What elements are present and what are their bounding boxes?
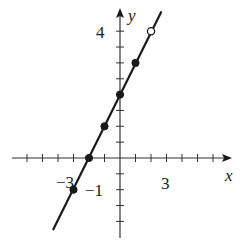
plotted-line [53, 12, 161, 229]
filled-point [132, 59, 139, 66]
x-tick-label-neg3: −3 [56, 173, 74, 192]
open-point [147, 28, 154, 35]
filled-point [101, 123, 108, 130]
filled-point [85, 154, 92, 161]
coordinate-plane: x y −3 3 4 −1 [0, 0, 248, 241]
x-axis-label: x [224, 166, 233, 185]
y-tick-label-neg1: −1 [85, 181, 103, 200]
graph-line [53, 12, 161, 229]
y-tick-label-4: 4 [96, 23, 105, 42]
axes [12, 8, 232, 238]
y-axis-label: y [126, 6, 136, 25]
x-tick-label-3: 3 [161, 174, 170, 193]
filled-point [116, 91, 123, 98]
